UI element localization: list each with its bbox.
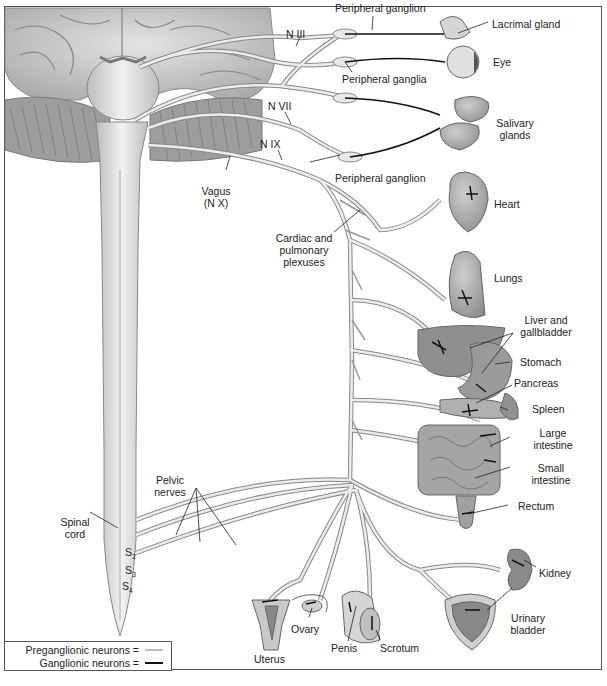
label-small-int-line2: intestine — [528, 474, 574, 486]
label-salivary-line2: glands — [492, 129, 538, 141]
label-n-ix: N IX — [260, 138, 280, 150]
label-uterus: Uterus — [254, 653, 285, 665]
label-cardiac-line1: Cardiac and — [272, 232, 336, 244]
label-eye: Eye — [493, 56, 511, 68]
spinal-cord — [96, 122, 148, 636]
label-large-intestine: Large intestine — [530, 427, 576, 451]
label-pelvic-line1: Pelvic — [152, 474, 188, 486]
parasympathetic-illustration — [0, 0, 607, 686]
label-s3: S3 — [125, 564, 136, 581]
label-lungs: Lungs — [494, 272, 523, 284]
legend-label-preganglionic: Preganglionic neurons = — [25, 644, 139, 656]
label-scrotum: Scrotum — [380, 642, 419, 654]
label-spinal-cord: Spinal cord — [58, 516, 92, 540]
label-spleen: Spleen — [532, 403, 565, 415]
legend-swatch-preganglionic — [145, 649, 163, 651]
label-n-vii: N VII — [268, 100, 291, 112]
label-cardiac-line2: pulmonary — [272, 244, 336, 256]
label-urinary-line2: bladder — [506, 624, 550, 636]
label-salivary-glands: Salivary glands — [492, 117, 538, 141]
label-ovary: Ovary — [291, 623, 319, 635]
label-cardiac-pulmonary-plexuses: Cardiac and pulmonary plexuses — [272, 232, 336, 268]
peripheral-ganglia — [333, 29, 362, 162]
label-spinal-line1: Spinal — [58, 516, 92, 528]
legend-swatch-ganglionic — [145, 662, 163, 664]
label-peripheral-ganglion-bottom: Peripheral ganglion — [335, 172, 425, 184]
label-liver-gallbladder: Liver and gallbladder — [516, 314, 576, 338]
label-large-int-line2: intestine — [530, 439, 576, 451]
label-urinary-bladder: Urinary bladder — [506, 612, 550, 636]
label-pelvic-nerves: Pelvic nerves — [152, 474, 188, 498]
label-s2-letter: S — [125, 546, 132, 558]
label-kidney: Kidney — [539, 567, 571, 579]
label-vagus-line1: Vagus — [196, 185, 236, 197]
label-salivary-line1: Salivary — [492, 117, 538, 129]
label-vagus-line2: (N X) — [196, 197, 236, 209]
label-s3-sub: 3 — [132, 571, 136, 578]
label-s4-letter: S — [122, 580, 129, 592]
label-urinary-line1: Urinary — [506, 612, 550, 624]
label-heart: Heart — [494, 198, 520, 210]
legend-item-preganglionic: Preganglionic neurons = — [25, 644, 163, 656]
label-s2-sub: 2 — [132, 553, 136, 560]
label-large-int-line1: Large — [530, 427, 576, 439]
label-stomach: Stomach — [520, 356, 561, 368]
label-s4-sub: 4 — [129, 587, 133, 594]
label-cardiac-line3: plexuses — [272, 256, 336, 268]
label-spinal-line2: cord — [58, 528, 92, 540]
label-pelvic-line2: nerves — [152, 486, 188, 498]
label-s2: S2 — [125, 546, 136, 563]
label-rectum: Rectum — [518, 500, 554, 512]
label-penis: Penis — [331, 642, 357, 654]
label-peripheral-ganglia: Peripheral ganglia — [342, 73, 427, 85]
legend: Preganglionic neurons = Ganglionic neuro… — [4, 641, 172, 671]
label-liver-line1: Liver and — [516, 314, 576, 326]
label-small-intestine: Small intestine — [528, 462, 574, 486]
ganglionic-neurons — [345, 34, 445, 157]
legend-label-ganglionic: Ganglionic neurons = — [39, 657, 139, 669]
label-peripheral-ganglion-top: Peripheral ganglion — [335, 2, 425, 14]
label-lacrimal-gland: Lacrimal gland — [492, 18, 560, 30]
legend-item-ganglionic: Ganglionic neurons = — [39, 657, 163, 669]
label-n-iii: N III — [286, 28, 305, 40]
label-liver-line2: gallbladder — [516, 326, 576, 338]
label-vagus: Vagus (N X) — [196, 185, 236, 209]
label-s3-letter: S — [125, 564, 132, 576]
label-small-int-line1: Small — [528, 462, 574, 474]
label-s4: S4 — [122, 580, 133, 597]
label-pancreas: Pancreas — [514, 377, 558, 389]
